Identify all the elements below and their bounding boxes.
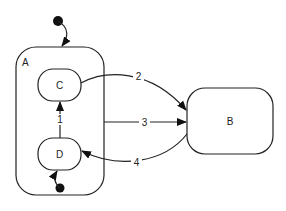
transition-1-label: 1 xyxy=(57,114,63,125)
state-c[interactable]: C xyxy=(38,69,81,101)
state-c-label: C xyxy=(56,80,63,91)
transition-3[interactable]: 3 xyxy=(104,116,186,128)
initial-state-top xyxy=(53,16,67,46)
state-b-label: B xyxy=(227,116,234,127)
state-a-label: A xyxy=(22,57,29,68)
state-d-label: D xyxy=(56,149,63,160)
transition-2-label: 2 xyxy=(136,71,142,82)
state-b[interactable]: B xyxy=(187,88,273,154)
state-diagram: A C D B 1 2 3 4 xyxy=(0,0,286,211)
transition-4-label: 4 xyxy=(134,157,140,168)
state-d[interactable]: D xyxy=(38,138,81,170)
transition-3-label: 3 xyxy=(142,117,148,128)
